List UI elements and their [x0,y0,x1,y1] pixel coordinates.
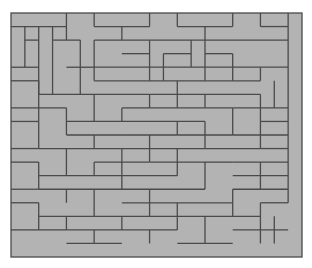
polyomino-tiling-svg [0,0,312,268]
figure-root [0,0,312,268]
